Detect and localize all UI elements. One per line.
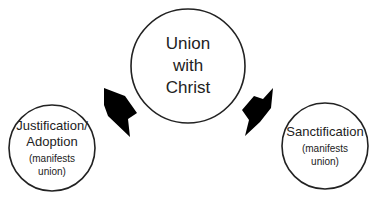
left-node: Justification/ Adoption (manifests union… [9,105,95,191]
center-line-3: Christ [166,77,210,99]
left-title-2: Adoption [26,134,77,150]
left-note-1: (manifests [29,152,75,165]
arrow-right-icon [242,88,273,136]
right-title-1: Sanctification [286,124,363,140]
center-node: Union with Christ [131,9,245,123]
center-line-2: with [173,55,203,77]
center-line-1: Union [166,33,210,55]
left-note-2: union) [38,165,66,178]
right-node: Sanctification (manifests union) [282,103,368,189]
left-title-1: Justification/ [16,118,88,134]
right-note-2: union) [311,155,339,168]
right-note-1: (manifests [302,142,348,155]
